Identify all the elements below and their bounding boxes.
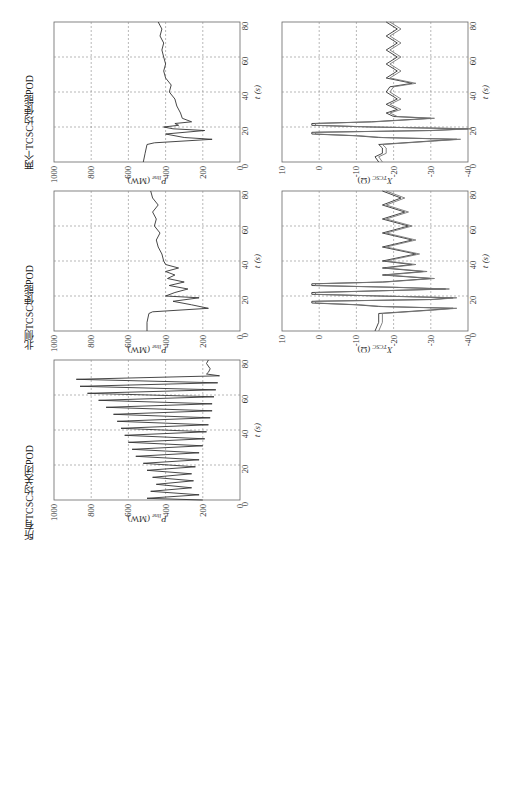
panel-title-both: 两个TCSC均使能POD: [22, 40, 37, 170]
value-tick-label: 1000: [49, 504, 59, 521]
plot-p-north: 02004006008001000020406080t (s)Pline (MW…: [40, 187, 250, 341]
time-axis-label: t (s): [252, 85, 262, 99]
value-tick-label: 200: [198, 504, 208, 517]
plot-p-both: 02004006008001000020406080t (s)Pline (MW…: [40, 18, 250, 172]
time-tick-label: 40: [240, 92, 250, 101]
time-tick-label: 40: [468, 92, 478, 101]
time-axis-label: t (s): [480, 85, 490, 99]
p-line-chart-both: 02004006008001000020406080t (s)Pline (MW…: [40, 18, 250, 168]
value-tick-label: -10: [351, 335, 361, 346]
time-tick-label: 80: [240, 22, 250, 31]
value-tick-label: -20: [389, 166, 399, 177]
value-tick-label: 200: [198, 335, 208, 348]
value-tick-label: 800: [86, 504, 96, 517]
time-axis-label: t (s): [252, 254, 262, 268]
panel-title-north: 北侧TCSC使能POD: [22, 220, 37, 350]
time-tick-label: 60: [468, 226, 478, 235]
time-tick-label: 40: [240, 430, 250, 439]
value-axis-label: XTCSC (Ω): [358, 175, 394, 186]
plot-x-both: -40-30-20-10010020406080t (s)XTCSC (Ω): [268, 18, 478, 172]
time-tick-label: 40: [240, 261, 250, 270]
value-axis-label: Pline (MW): [127, 175, 167, 186]
time-tick-label: 20: [240, 465, 250, 474]
value-tick-label: 800: [86, 335, 96, 348]
time-tick-label: 80: [468, 191, 478, 200]
time-tick-label: 40: [468, 261, 478, 270]
value-tick-label: 0: [314, 335, 324, 339]
time-tick-label: 60: [240, 395, 250, 404]
panel-title-off: 所有TCSC均关闭POD: [22, 400, 37, 540]
value-axis-label: XTCSC (Ω): [358, 344, 394, 355]
p-line-chart-north: 02004006008001000020406080t (s)Pline (MW…: [40, 187, 250, 337]
time-tick-label: 0: [468, 333, 478, 337]
x-tcsc-chart-north: -40-30-20-10010020406080t (s)XTCSC (Ω): [268, 187, 478, 337]
value-tick-label: -30: [426, 335, 436, 346]
value-tick-label: -20: [389, 335, 399, 346]
value-tick-label: -10: [351, 166, 361, 177]
value-axis-label: Pline (MW): [127, 513, 167, 524]
series-line: [143, 22, 212, 162]
time-tick-label: 0: [240, 164, 250, 168]
value-tick-label: 1000: [49, 335, 59, 352]
value-tick-label: -30: [426, 166, 436, 177]
time-tick-label: 0: [240, 333, 250, 337]
plot-p-off: 02004006008001000020406080t (s)Pline (MW…: [40, 356, 250, 510]
value-tick-label: 10: [277, 166, 287, 175]
time-axis-label: t (s): [252, 423, 262, 437]
time-tick-label: 20: [240, 127, 250, 136]
time-tick-label: 20: [468, 296, 478, 305]
value-tick-label: 10: [277, 335, 287, 344]
time-tick-label: 20: [240, 296, 250, 305]
value-tick-label: 0: [314, 166, 324, 170]
time-tick-label: 80: [240, 191, 250, 200]
time-tick-label: 80: [468, 22, 478, 31]
p-line-chart-off: 02004006008001000020406080t (s)Pline (MW…: [40, 356, 250, 506]
plot-x-north: -40-30-20-10010020406080t (s)XTCSC (Ω): [268, 187, 478, 341]
time-tick-label: 80: [240, 360, 250, 369]
value-axis-label: Pline (MW): [127, 344, 167, 355]
time-tick-label: 0: [468, 164, 478, 168]
value-tick-label: 200: [198, 166, 208, 179]
time-tick-label: 60: [468, 57, 478, 66]
value-tick-label: 800: [86, 166, 96, 179]
time-tick-label: 60: [240, 226, 250, 235]
time-tick-label: 20: [468, 127, 478, 136]
time-tick-label: 0: [240, 502, 250, 506]
x-tcsc-chart-both: -40-30-20-10010020406080t (s)XTCSC (Ω): [268, 18, 478, 168]
time-axis-label: t (s): [480, 254, 490, 268]
value-tick-label: 1000: [49, 166, 59, 183]
time-tick-label: 60: [240, 57, 250, 66]
